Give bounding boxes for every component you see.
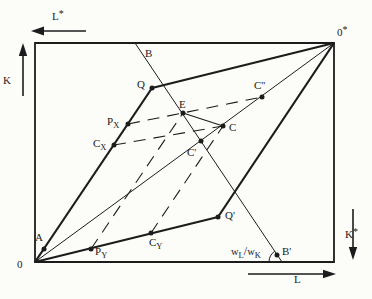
wage-angle-arc: [269, 251, 275, 262]
label-point-cprime: C': [187, 147, 196, 158]
label-origin-ostar: 0*: [337, 25, 348, 38]
point-dot-c: [221, 124, 226, 129]
label-point-cy: CY: [149, 237, 162, 251]
kstar-arrowhead-icon: [349, 247, 357, 260]
label-wage-ratio: wL/wK: [231, 245, 261, 260]
line-o-q: [35, 88, 152, 262]
point-dot-cdprime: [260, 95, 265, 100]
point-dot-cprime: [199, 139, 204, 144]
point-dot-q: [150, 86, 155, 91]
diagram-geometry: [0, 0, 372, 299]
lstar-arrowhead-icon: [31, 27, 44, 36]
label-point-bprime: B': [282, 246, 291, 257]
line-o-qprime: [35, 217, 218, 262]
label-point-b: B: [145, 48, 152, 59]
point-dot-bprime: [275, 253, 280, 258]
point-dot-cx: [112, 143, 117, 148]
label-axis-kstar: K*: [345, 227, 358, 240]
point-dot-py: [89, 247, 94, 252]
label-point-q: Q: [137, 79, 145, 90]
label-point-px: PX: [107, 116, 119, 130]
l-arrowhead-icon: [323, 270, 336, 278]
point-dot-a: [42, 247, 47, 252]
label-point-cdprime: C'': [254, 80, 265, 91]
point-dot-px: [126, 122, 131, 127]
point-dot-qprime: [216, 215, 221, 220]
label-point-qprime: Q': [225, 210, 235, 221]
label-point-c: C: [229, 122, 236, 133]
label-point-e: E: [179, 99, 186, 110]
dashed-cx-c: [114, 126, 223, 145]
dashed-cy-c: [151, 126, 223, 233]
point-dot-e: [181, 111, 186, 116]
label-axis-lstar: L*: [52, 9, 64, 22]
label-point-cx: CX: [93, 138, 106, 152]
label-point-py: PY: [95, 246, 107, 260]
label-origin-o: 0: [17, 259, 23, 270]
line-q-ostar: [152, 43, 334, 88]
label-axis-k: K: [3, 75, 11, 86]
k-arrowhead-icon: [19, 43, 27, 56]
line-diagonal-o-ostar: [35, 43, 334, 262]
label-point-a: A: [35, 232, 43, 243]
diagram-canvas: L* K K* L 0 0* B Q C'' E PX C CX C' Q' A…: [0, 0, 372, 299]
point-dot-cy: [149, 231, 154, 236]
label-axis-l: L: [294, 274, 301, 285]
